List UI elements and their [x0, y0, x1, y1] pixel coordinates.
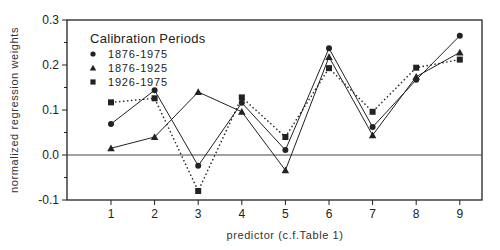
- x-tick-label: 6: [326, 207, 333, 221]
- circle-marker: [90, 51, 95, 56]
- y-axis-title-group: normalized regression weights: [8, 27, 20, 193]
- triangle-marker: [456, 49, 464, 56]
- square-marker: [90, 79, 95, 84]
- y-tick-label: -0.1: [38, 193, 59, 207]
- circle-marker: [282, 147, 288, 153]
- y-tick-label: 0.2: [42, 58, 59, 72]
- y-axis-ticks: -0.10.00.10.20.3: [38, 13, 67, 207]
- x-tick-label: 5: [282, 207, 289, 221]
- triangle-marker: [238, 108, 246, 115]
- circle-marker: [457, 33, 463, 39]
- square-marker: [413, 65, 419, 71]
- x-tick-label: 8: [413, 207, 420, 221]
- x-tick-label: 4: [238, 207, 245, 221]
- legend-item: 1876-1925: [90, 62, 168, 74]
- circle-marker: [152, 87, 158, 93]
- triangle-marker: [412, 73, 420, 80]
- square-marker: [282, 134, 288, 140]
- circle-marker: [108, 121, 114, 127]
- x-axis-title: predictor (c.f.Table 1): [226, 229, 343, 241]
- legend-items: 1876-19751876-19251926-1975: [90, 48, 168, 88]
- legend-label: 1876-1975: [108, 48, 168, 60]
- x-axis-ticks: 123456789: [108, 200, 464, 221]
- circle-marker: [326, 45, 332, 51]
- circle-marker: [239, 100, 245, 106]
- x-tick-label: 2: [151, 207, 158, 221]
- triangle-marker: [90, 65, 97, 71]
- circle-marker: [370, 124, 376, 130]
- legend-item: 1926-1975: [90, 76, 167, 88]
- legend-label: 1876-1925: [108, 62, 168, 74]
- x-tick-label: 9: [456, 207, 463, 221]
- legend-label: 1926-1975: [108, 76, 168, 88]
- square-marker: [108, 99, 114, 105]
- square-marker: [195, 188, 201, 194]
- y-tick-label: 0.3: [42, 13, 59, 27]
- x-tick-label: 3: [195, 207, 202, 221]
- square-marker: [370, 109, 376, 115]
- x-tick-label: 1: [108, 207, 115, 221]
- x-tick-label: 7: [369, 207, 376, 221]
- square-marker: [326, 65, 332, 71]
- y-tick-label: 0.0: [42, 148, 59, 162]
- y-tick-label: 0.1: [42, 103, 59, 117]
- legend-item: 1876-1975: [90, 48, 167, 60]
- triangle-marker: [194, 88, 202, 95]
- line-chart: normalized regression weights predictor …: [0, 0, 500, 250]
- y-axis-title: normalized regression weights: [8, 27, 20, 193]
- legend: Calibration Periods 1876-19751876-192519…: [90, 31, 206, 88]
- circle-marker: [195, 163, 201, 169]
- legend-title: Calibration Periods: [90, 31, 206, 46]
- square-marker: [457, 57, 463, 63]
- square-marker: [239, 94, 245, 100]
- square-marker: [152, 95, 158, 101]
